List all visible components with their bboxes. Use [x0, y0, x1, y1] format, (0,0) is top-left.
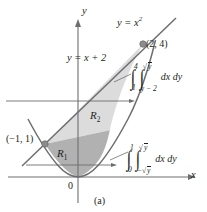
integral-differential: dx dy — [155, 154, 176, 164]
integral-sign-inner: ∫ — [136, 150, 140, 168]
integral-expression-lower: ∫ 1 0 ∫ √y −√y dx dy — [126, 143, 177, 175]
curve-label-parabola: y = x2 — [117, 16, 142, 28]
region-label-r2: R2 — [90, 110, 100, 124]
figure-canvas — [0, 0, 207, 212]
integral-limits-outer: 1 0 — [131, 144, 134, 174]
integral-sign-outer: ∫ — [131, 69, 135, 87]
region-label-r1: R1 — [57, 148, 67, 162]
point-neg1-1-marker — [42, 141, 48, 147]
figure-caption: (a) — [94, 196, 105, 206]
integral-sign-outer: ∫ — [127, 150, 131, 168]
x-axis-label: x — [191, 170, 196, 181]
point-label-2-4: (2, 4) — [146, 39, 168, 49]
integral-limits-outer: 4 1 — [135, 63, 138, 93]
point-label-neg1-1: (−1, 1) — [6, 134, 33, 144]
integral-expression-upper: ∫ 4 1 ∫ √y y − 2 dx dy — [130, 62, 182, 93]
integral-limits-inner: √y −√y — [140, 143, 152, 175]
origin-label: 0 — [68, 181, 73, 191]
y-axis-label: y — [82, 6, 87, 17]
x-axis — [8, 174, 195, 180]
integral-sign-inner: ∫ — [140, 69, 144, 87]
integral-limits-inner: √y y − 2 — [144, 62, 157, 93]
curve-label-line: y = x + 2 — [67, 53, 106, 64]
integral-differential: dx dy — [161, 72, 182, 82]
